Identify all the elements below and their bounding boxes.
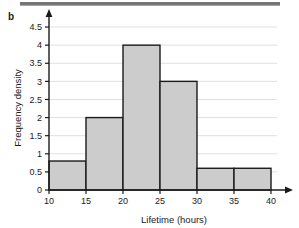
x-tick-label: 40 — [266, 196, 276, 206]
histogram-bar — [49, 161, 86, 190]
histogram-chart: 10152025303540 00.511.522.533.544.5 Life… — [0, 0, 299, 228]
y-tick-label: 3 — [37, 77, 42, 87]
y-tick-label: 4 — [37, 40, 42, 50]
x-axis-title: Lifetime (hours) — [141, 214, 207, 225]
histogram-bar — [160, 81, 197, 190]
y-tick-label: 2.5 — [29, 95, 42, 105]
x-tick-label: 10 — [44, 196, 54, 206]
x-tick-label: 20 — [118, 196, 128, 206]
y-tick-label: 1 — [37, 149, 42, 159]
histogram-bar — [234, 168, 271, 190]
y-axis-ticks: 00.511.522.533.544.5 — [29, 22, 49, 195]
y-axis-arrow — [46, 9, 53, 17]
x-tick-label: 15 — [81, 196, 91, 206]
x-tick-label: 30 — [192, 196, 202, 206]
y-tick-label: 0 — [37, 185, 42, 195]
y-axis-title: Frequency density — [12, 69, 23, 147]
histogram-bar — [86, 118, 123, 190]
y-tick-label: 3.5 — [29, 58, 42, 68]
x-axis-arrow — [285, 187, 293, 194]
y-tick-label: 1.5 — [29, 131, 42, 141]
histogram-bar — [197, 168, 234, 190]
x-axis-ticks: 10152025303540 — [44, 190, 276, 206]
x-tick-label: 35 — [229, 196, 239, 206]
y-tick-label: 0.5 — [29, 167, 42, 177]
x-tick-label: 25 — [155, 196, 165, 206]
y-tick-label: 4.5 — [29, 22, 42, 32]
y-tick-label: 2 — [37, 113, 42, 123]
histogram-bar — [123, 45, 160, 190]
